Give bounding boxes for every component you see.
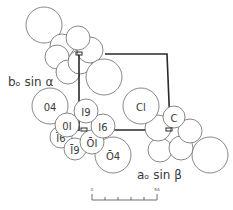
atom-label-o1-bar: ŌI (87, 137, 98, 149)
scale-start-label: 0 (91, 187, 94, 192)
corner-marker (81, 128, 87, 131)
atom-circle (66, 26, 90, 50)
atom-circle (148, 138, 172, 162)
atom-circle (86, 59, 122, 95)
scale-end-label: 5A (154, 187, 160, 192)
axis-label-b: bₒ sin α (8, 75, 53, 89)
atom-label-i6: I6 (98, 122, 107, 133)
atom-label-i9: I9 (81, 107, 90, 118)
atom-label-i9-bar: Ī9 (70, 144, 79, 156)
axis-label-a: aₒ sin β (137, 168, 182, 182)
atom-label-o4-bar: Ō4 (106, 150, 120, 162)
atom-label-c: C (171, 113, 178, 124)
scale-bar: 0 5A (91, 187, 160, 200)
atom-label-cl: Cl (136, 102, 146, 113)
atom-label-o1: 0I (62, 121, 71, 132)
atom-circle (192, 137, 228, 173)
crystal-structure-diagram: Cl C 04 Ō4 Ī6 Ī9 0I ŌI I6 I9 bₒ sin α aₒ… (0, 0, 233, 210)
atom-label-o4: 04 (44, 102, 57, 113)
